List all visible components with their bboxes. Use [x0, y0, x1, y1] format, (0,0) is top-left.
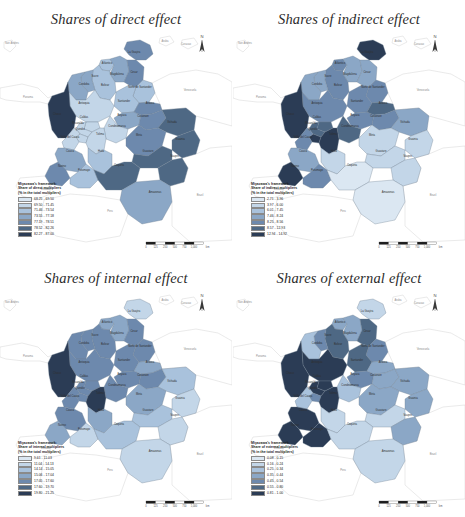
- legend-class-row: 77.19 - 78.51: [18, 220, 104, 225]
- legend-swatch: [18, 491, 32, 496]
- legend-swatch: [251, 226, 265, 231]
- legend-class-label: 15.06 - 17.04: [34, 473, 54, 478]
- label-norte-santander: Norte de Santander: [361, 85, 385, 89]
- label-cesar: Cesar: [130, 70, 137, 74]
- scale-bar-segment: [194, 242, 204, 244]
- map-canvas-indirect-effect: La GuajiraAtlanticoMagdalenaCesarBolivar…: [233, 30, 465, 258]
- scale-bar-tick: 250: [396, 245, 401, 249]
- label-la-guajira: La Guajira: [128, 50, 141, 54]
- label-guainia: Guainia: [408, 396, 418, 400]
- scale-bar-segment: [379, 242, 389, 244]
- label-guainia: Guainia: [175, 396, 185, 400]
- legend-class-row: 0.35 - 0.44: [251, 473, 337, 478]
- department-santander[interactable]: [114, 344, 139, 372]
- department-amazonas[interactable]: [120, 180, 172, 224]
- scale-bar: 01252505007501,000km: [145, 501, 209, 508]
- legend-title: Miyazawa's framework:Share of internal m…: [18, 441, 104, 454]
- map-panel-internal-effect: Shares of internal effect La GuajiraAtla…: [0, 259, 232, 517]
- north-arrow: N: [199, 34, 204, 52]
- legend-panel-2: Miyazawa's framework:Share of indirect m…: [251, 182, 337, 237]
- panel-title-external-effect: Shares of external effect: [233, 270, 465, 287]
- label-narino: Narino: [291, 164, 299, 168]
- scale-bar-tick: 750: [182, 504, 187, 508]
- legend-class-label: 17.60 - 19.70: [34, 485, 54, 490]
- legend-class-list: 68.25 - 69.5069.50 - 71.4571.46 - 73.547…: [18, 197, 104, 237]
- label-venezuela: Venezuela: [184, 88, 197, 92]
- scale-bar-tick: 1,000: [191, 504, 198, 508]
- legend-class-label: 0.81 - 1.00: [267, 491, 283, 496]
- scale-bar-segment: [165, 242, 175, 244]
- label-antioquia: Antioquia: [78, 101, 90, 105]
- legend-class-row: 3.97 - 6.00: [251, 203, 337, 208]
- department-santander[interactable]: [114, 85, 139, 113]
- label-venezuela: Venezuela: [417, 88, 430, 92]
- label-caqueta: Caqueta: [347, 422, 358, 426]
- label-casanare: Casanare: [370, 114, 382, 118]
- scale-bar-tick: 250: [163, 504, 168, 508]
- department-la-guajira[interactable]: [357, 40, 386, 60]
- department-amazonas[interactable]: [353, 439, 405, 483]
- department-amazonas[interactable]: [120, 439, 172, 483]
- legend-swatch: [251, 220, 265, 225]
- label-cesar: Cesar: [363, 70, 370, 74]
- label-huila: Huila: [331, 408, 338, 412]
- label-boyaca: Boyaca: [351, 372, 360, 376]
- legend-class-label: 12.94 - 14.92: [267, 232, 287, 237]
- label-amazonas: Amazonas: [149, 449, 162, 453]
- panel-title-direct-effect: Shares of direct effect: [0, 11, 232, 28]
- scale-bar-segment: [175, 242, 185, 244]
- scale-bar-tick: 750: [415, 245, 420, 249]
- label-curacao: Curacao: [414, 42, 425, 46]
- legend-swatch: [251, 456, 265, 461]
- legend-title: Miyazawa's framework:Share of external m…: [251, 441, 337, 454]
- department-amazonas[interactable]: [353, 180, 405, 224]
- legend-class-row: 2.71 - 3.96: [251, 197, 337, 202]
- label-la-guajira: La Guajira: [361, 50, 374, 54]
- scale-bar-segment: [156, 242, 166, 244]
- legend-class-label: 8.25 - 8.56: [267, 220, 283, 225]
- neighbor-outline: [0, 84, 52, 104]
- legend-class-row: 9.61 - 11.03: [18, 456, 104, 461]
- map-panel-external-effect: Shares of external effect La GuajiraAtla…: [233, 259, 465, 517]
- legend-swatch: [251, 197, 265, 202]
- label-cauca: Cauca: [299, 149, 307, 153]
- label-choco: Choco: [53, 112, 61, 116]
- legend-title: Miyazawa's framework:Share of direct mul…: [18, 182, 104, 195]
- scale-bar-segment: [427, 242, 437, 244]
- legend-class-label: 73.55 - 77.18: [34, 214, 54, 219]
- department-la-guajira[interactable]: [124, 299, 153, 319]
- label-cordoba: Cordoba: [312, 82, 323, 86]
- label-vaupes: Vaupes: [171, 154, 181, 158]
- label-panama: Panama: [23, 95, 34, 99]
- scale-bar-tick: 250: [163, 245, 168, 249]
- label-meta: Meta: [136, 392, 142, 396]
- label-guainia: Guainia: [175, 137, 185, 141]
- label-magdalena: Magdalena: [343, 331, 357, 335]
- legend-swatch: [251, 491, 265, 496]
- label-boyaca: Boyaca: [118, 113, 127, 117]
- label-sucre: Sucre: [324, 74, 332, 78]
- neighbor-outline: [233, 84, 285, 104]
- scale-bar-tick: 1,000: [424, 245, 431, 249]
- label-risaralda: Risaralda: [72, 121, 84, 125]
- scale-bar-tick: 750: [182, 245, 187, 249]
- scale-bar-tick: 1,000: [424, 504, 431, 508]
- legend-swatch: [251, 232, 265, 237]
- label-vaupes: Vaupes: [171, 413, 181, 417]
- label-vichada: Vichada: [400, 120, 410, 124]
- label-sucre: Sucre: [91, 333, 99, 337]
- department-la-guajira[interactable]: [124, 40, 153, 60]
- department-santander[interactable]: [347, 344, 372, 372]
- department-santander[interactable]: [347, 85, 372, 113]
- label-brazil: Brazil: [197, 452, 204, 456]
- legend-swatch: [18, 456, 32, 461]
- label-panama: Panama: [23, 354, 34, 358]
- scale-bar-tick: 1,000: [191, 245, 198, 249]
- label-caqueta: Caqueta: [114, 422, 125, 426]
- label-casanare: Casanare: [137, 114, 149, 118]
- legend-class-row: 82.27 - 87.00: [18, 232, 104, 237]
- panel-title-internal-effect: Shares of internal effect: [0, 270, 232, 287]
- department-la-guajira[interactable]: [357, 299, 386, 319]
- label-choco: Choco: [286, 371, 294, 375]
- scale-bar-unit: km: [206, 245, 209, 249]
